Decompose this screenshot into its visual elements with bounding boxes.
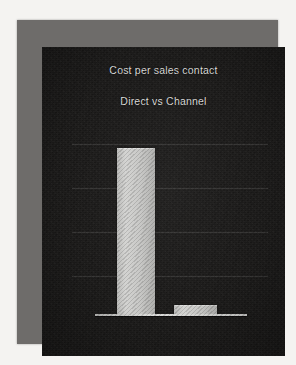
bar-direct[interactable]: [117, 148, 155, 314]
gridline-1: [72, 276, 268, 277]
slide-canvas: Cost per sales contact Direct vs Channel: [0, 0, 296, 365]
gridline-4: [72, 144, 268, 145]
bar-channel[interactable]: [174, 305, 217, 314]
plot-area: [42, 47, 285, 356]
chart-title: Cost per sales contact: [42, 64, 285, 76]
x-axis-baseline: [95, 314, 247, 316]
slide-frame-border: Cost per sales contact Direct vs Channel: [17, 20, 278, 344]
gridline-2: [72, 232, 268, 233]
chart-panel: Cost per sales contact Direct vs Channel: [42, 47, 285, 356]
chart-subtitle: Direct vs Channel: [42, 95, 285, 107]
gridline-3: [72, 188, 268, 189]
